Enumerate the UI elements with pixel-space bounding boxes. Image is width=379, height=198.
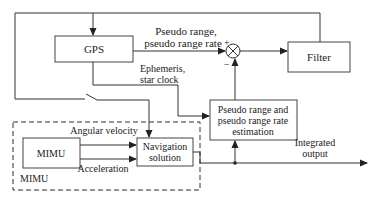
mimu-label: MIMU (37, 148, 66, 159)
pseudo-range-label-1: Pseudo range, (155, 25, 217, 37)
estimation-label-2: pseudo range rate (218, 115, 289, 126)
filter-label: Filter (307, 51, 331, 63)
ephemeris-label-2: star clock (140, 74, 179, 85)
estimation-block: Pseudo range and pseudo range rate estim… (210, 100, 297, 140)
gps-block: GPS (55, 36, 133, 62)
integrated-output-label-1: Integrated (295, 137, 336, 148)
acceleration-label: Acceleration (77, 163, 128, 174)
angular-velocity-label: Angular velocity (70, 125, 137, 136)
nav-solution-block: Navigation solution (137, 138, 193, 166)
summing-junction (226, 44, 240, 58)
estimation-label-1: Pseudo range and (218, 104, 289, 115)
nav-solution-label-1: Navigation (143, 141, 187, 152)
mimu-group-label: MIMU (20, 173, 49, 184)
mimu-block: MIMU (23, 138, 80, 168)
filter-block: Filter (288, 42, 350, 72)
minus-sign: − (224, 59, 230, 70)
integrated-output-line (193, 152, 367, 163)
gps-label: GPS (84, 43, 104, 55)
nav-solution-label-2: solution (149, 152, 181, 163)
integrated-output-label-2: output (302, 148, 328, 159)
block-diagram: GPS Pseudo range, pseudo range rate + − … (0, 0, 379, 198)
estimation-label-3: estimation (232, 126, 274, 137)
ephemeris-label-1: Ephemeris, (140, 63, 185, 74)
pseudo-range-label-2: pseudo range rate (144, 37, 222, 49)
